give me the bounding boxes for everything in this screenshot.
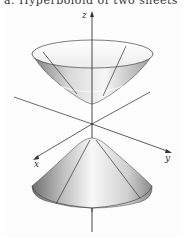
x-axis-back	[14, 97, 92, 124]
hyperboloid-diagram: z x y	[0, 0, 185, 242]
upper-sheet	[32, 40, 153, 104]
y-axis-label: y	[164, 153, 171, 163]
z-axis-arrow-icon	[90, 11, 94, 17]
origin	[91, 123, 93, 125]
lower-sheet	[32, 138, 152, 208]
x-axis-label: x	[34, 159, 39, 169]
z-axis-label: z	[81, 10, 87, 20]
